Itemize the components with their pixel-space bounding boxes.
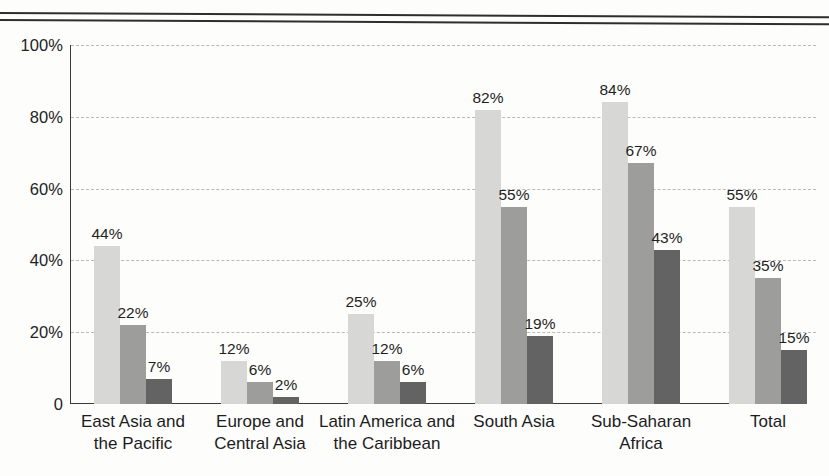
bar[interactable]: 55% (729, 207, 755, 404)
bar-group: 82%55%19% (475, 45, 553, 404)
bar-value-label: 35% (752, 257, 783, 275)
bar-value-label: 25% (345, 293, 376, 311)
bar[interactable]: 6% (400, 382, 426, 404)
bar-value-label: 67% (625, 142, 656, 160)
bar[interactable]: 43% (654, 250, 680, 404)
bar[interactable]: 22% (120, 325, 146, 404)
bar[interactable]: 55% (501, 207, 527, 404)
bar[interactable]: 12% (221, 361, 247, 404)
bar-value-label: 6% (402, 361, 424, 379)
bar-value-label: 82% (472, 89, 503, 107)
category-label-line2: the Caribbean (297, 433, 477, 455)
y-axis-tick-label: 80% (0, 107, 63, 126)
bar[interactable]: 35% (755, 278, 781, 404)
bar-chart: 020%40%60%80%100% 44%22%7%12%6%2%25%12%6… (0, 0, 829, 476)
bar-group: 25%12%6% (348, 45, 426, 404)
bar[interactable]: 84% (602, 102, 628, 404)
bar[interactable]: 82% (475, 110, 501, 404)
x-axis-category-label: Total (678, 411, 829, 433)
bar-value-label: 12% (218, 340, 249, 358)
bar[interactable]: 12% (374, 361, 400, 404)
y-axis-tick-label: 20% (0, 323, 63, 342)
bar-group: 55%35%15% (729, 45, 807, 404)
bar-group: 84%67%43% (602, 45, 680, 404)
plot-area: 44%22%7%12%6%2%25%12%6%82%55%19%84%67%43… (71, 45, 816, 404)
bar[interactable]: 6% (247, 382, 273, 404)
bar-value-label: 43% (651, 229, 682, 247)
y-axis-tick-label: 40% (0, 251, 63, 270)
bar-value-label: 84% (599, 81, 630, 99)
bar[interactable]: 7% (146, 379, 172, 404)
bar[interactable]: 44% (94, 246, 120, 404)
bar-value-label: 19% (524, 315, 555, 333)
bar[interactable]: 15% (781, 350, 807, 404)
bar-value-label: 7% (148, 358, 170, 376)
category-label-line1: Total (750, 412, 786, 431)
bar-value-label: 6% (249, 361, 271, 379)
bar-value-label: 55% (726, 186, 757, 204)
bar-group: 44%22%7% (94, 45, 172, 404)
y-axis-tick-label: 100% (0, 36, 63, 55)
bar-value-label: 55% (498, 186, 529, 204)
bar-value-label: 15% (778, 329, 809, 347)
bar-value-label: 44% (91, 225, 122, 243)
bar-value-label: 2% (275, 376, 297, 394)
category-label-line2: Africa (551, 433, 731, 455)
category-label-line1: Sub-Saharan (591, 412, 691, 431)
bar-value-label: 22% (117, 304, 148, 322)
bar[interactable]: 2% (273, 397, 299, 404)
bar-group: 12%6%2% (221, 45, 299, 404)
bar[interactable]: 67% (628, 163, 654, 404)
category-label-line1: South Asia (473, 412, 554, 431)
bar[interactable]: 19% (527, 336, 553, 404)
y-axis-tick-label: 60% (0, 179, 63, 198)
category-label-line1: Europe and (216, 412, 304, 431)
bar-value-label: 12% (371, 340, 402, 358)
bar[interactable]: 25% (348, 314, 374, 404)
